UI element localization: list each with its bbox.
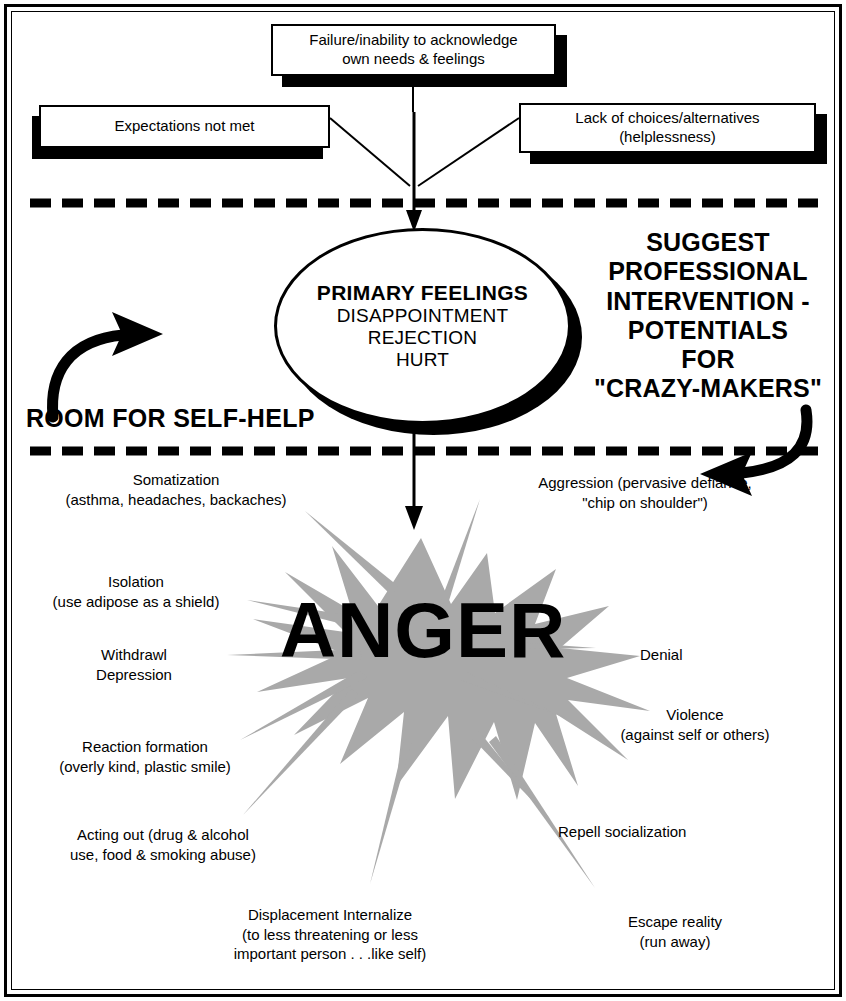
label-withdrawl-depression: Withdrawl Depression xyxy=(58,645,210,684)
ellipse-line-disappointment: DISAPPOINTMENT xyxy=(337,305,509,327)
isolation-line2: (use adipose as a shield) xyxy=(20,592,252,612)
failure-box-line1: Failure/inability to acknowledge xyxy=(309,31,517,50)
room-for-self-help-caption: ROOM FOR SELF-HELP xyxy=(26,404,315,433)
ray-escape-reality xyxy=(489,736,595,888)
lack-of-choices-box-line1: Lack of choices/alternatives xyxy=(575,109,759,128)
escape-line1: Escape reality xyxy=(580,912,770,932)
diagram-canvas: Failure/inability to acknowledge own nee… xyxy=(0,0,846,1001)
failure-box: Failure/inability to acknowledge own nee… xyxy=(271,24,556,76)
intervention-line-4: POTENTIALS xyxy=(583,316,833,345)
ellipse-line-hurt: HURT xyxy=(396,349,449,371)
expectations-box: Expectations not met xyxy=(39,105,330,148)
lack-of-choices-box-line2: (helplessness) xyxy=(575,128,759,147)
violence-line2: (against self or others) xyxy=(570,725,820,745)
primary-feelings-ellipse: PRIMARY FEELINGS DISAPPOINTMENT REJECTIO… xyxy=(274,228,571,424)
violence-line1: Violence xyxy=(570,705,820,725)
intervention-line-3: INTERVENTION - xyxy=(583,287,833,316)
arrow-to-anger-head xyxy=(405,506,423,530)
repell-line1: Repell socialization xyxy=(558,822,808,842)
intervention-line-2: PROFESSIONAL xyxy=(583,257,833,286)
withdrawl-line1: Withdrawl xyxy=(58,645,210,665)
isolation-line1: Isolation xyxy=(20,572,252,592)
acting-out-line1: Acting out (drug & alcohol xyxy=(38,825,288,845)
self-help-curved-arrow xyxy=(53,312,163,417)
expectations-box-line1: Expectations not met xyxy=(114,117,254,136)
displacement-line1: Displacement Internalize xyxy=(180,905,480,925)
label-aggression: Aggression (pervasive defiance, "chip on… xyxy=(470,473,820,512)
denial-line1: Denial xyxy=(640,645,790,665)
label-somatization: Somatization (asthma, headaches, backach… xyxy=(36,470,316,509)
failure-box-line2: own needs & feelings xyxy=(309,50,517,69)
reaction-formation-line1: Reaction formation xyxy=(30,737,260,757)
label-acting-out: Acting out (drug & alcohol use, food & s… xyxy=(38,825,288,864)
lack-of-choices-box: Lack of choices/alternatives (helplessne… xyxy=(519,103,816,153)
intervention-line-5: FOR xyxy=(583,345,833,374)
professional-intervention-caption: SUGGEST PROFESSIONAL INTERVENTION - POTE… xyxy=(583,228,833,404)
label-escape-reality: Escape reality (run away) xyxy=(580,912,770,951)
ellipse-line-primary-feelings: PRIMARY FEELINGS xyxy=(317,281,528,305)
label-violence: Violence (against self or others) xyxy=(570,705,820,744)
aggression-line2: "chip on shoulder") xyxy=(470,493,820,513)
withdrawl-line2: Depression xyxy=(58,665,210,685)
ellipse-line-rejection: REJECTION xyxy=(368,327,477,349)
reaction-formation-line2: (overly kind, plastic smile) xyxy=(30,757,260,777)
intervention-line-1: SUGGEST xyxy=(583,228,833,257)
label-displacement-internalize: Displacement Internalize (to less threat… xyxy=(180,905,480,964)
displacement-line2: (to less threatening or less xyxy=(180,925,480,945)
displacement-line3: important person . . .like self) xyxy=(180,944,480,964)
escape-line2: (run away) xyxy=(580,932,770,952)
aggression-line1: Aggression (pervasive defiance, xyxy=(470,473,820,493)
connector-left-diagonal xyxy=(330,118,410,186)
intervention-line-6: "CRAZY-MAKERS" xyxy=(583,374,833,403)
label-repell-socialization: Repell socialization xyxy=(558,822,808,842)
label-reaction-formation: Reaction formation (overly kind, plastic… xyxy=(30,737,260,776)
acting-out-line2: use, food & smoking abuse) xyxy=(38,845,288,865)
somatization-line2: (asthma, headaches, backaches) xyxy=(36,490,316,510)
connector-right-diagonal xyxy=(418,118,519,186)
label-isolation: Isolation (use adipose as a shield) xyxy=(20,572,252,611)
label-denial: Denial xyxy=(640,645,790,665)
somatization-line1: Somatization xyxy=(36,470,316,490)
